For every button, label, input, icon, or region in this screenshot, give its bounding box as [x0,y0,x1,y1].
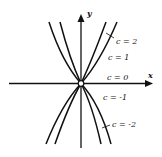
label-c-neg2: c = -2 [112,120,136,129]
label-c-1: c = 1 [108,53,129,62]
x-axis-arrow-icon [145,80,153,87]
curve-c-2 [60,22,106,84]
curve-c-neg1 [46,84,111,145]
label-c-0: c = 0 [107,73,128,82]
origin-open-circle-icon [78,81,84,87]
label-c-2: c = 2 [116,37,137,46]
x-axis-label: x [147,70,153,80]
y-axis-arrow-icon [78,14,85,22]
y-axis-label: y [86,8,93,18]
curve-c-neg2 [55,84,101,145]
parabola-family-diagram: x y c = 2 c = 1 c = 0 c = -1 c = -2 [0,0,162,157]
label-c-neg1: c = -1 [103,93,127,102]
